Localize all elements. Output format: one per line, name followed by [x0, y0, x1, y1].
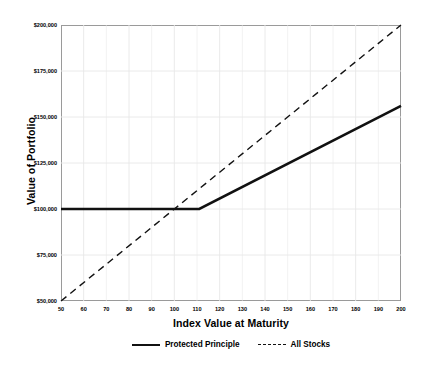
legend-label-all-stocks: All Stocks [291, 340, 331, 349]
legend-item-protected-principle: Protected Principle [132, 340, 240, 349]
y-tick-label: $100,000 [13, 206, 57, 212]
x-tick-label: 200 [386, 306, 416, 312]
y-tick-label: $175,000 [13, 68, 57, 74]
legend-swatch-solid-icon [132, 344, 160, 346]
y-tick-label: $75,000 [13, 252, 57, 258]
series-line-protected-principle [61, 106, 401, 209]
y-tick-label: $125,000 [13, 160, 57, 166]
legend-item-all-stocks: All Stocks [258, 340, 331, 349]
legend-label-protected-principle: Protected Principle [165, 340, 240, 349]
legend-swatch-dashed-icon [258, 344, 286, 345]
x-axis-title: Index Value at Maturity [61, 317, 401, 329]
chart-container: Value of Portfolio $50,000$75,000$100,00… [0, 0, 442, 366]
y-tick-label: $200,000 [13, 22, 57, 28]
y-tick-label: $50,000 [13, 298, 57, 304]
y-tick-label: $150,000 [13, 114, 57, 120]
plot-svg [61, 25, 401, 301]
chart-legend: Protected Principle All Stocks [61, 340, 401, 349]
